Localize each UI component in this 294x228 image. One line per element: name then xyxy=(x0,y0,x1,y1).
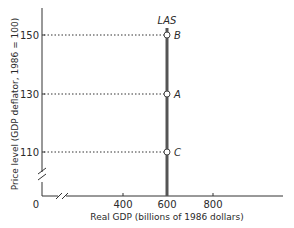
point-c-marker xyxy=(164,149,170,155)
y-tick-130: 130 xyxy=(20,89,39,100)
point-a-label: A xyxy=(173,89,181,100)
x-tick-400: 400 xyxy=(113,199,132,210)
point-b-label: B xyxy=(174,30,181,41)
x-tick-600: 600 xyxy=(157,199,176,210)
y-tick-150: 150 xyxy=(20,30,39,41)
x-tick-800: 800 xyxy=(203,199,222,210)
y-tick-110: 110 xyxy=(20,147,39,158)
x-tick-0: 0 xyxy=(33,199,39,210)
point-b-marker xyxy=(164,32,170,38)
y-axis-label: Price level (GDP deflator, 1986 = 100) xyxy=(10,18,20,191)
point-a-marker xyxy=(164,91,170,97)
las-chart: 150 130 110 0 400 600 800 Real GDP (bill… xyxy=(0,0,294,228)
point-c-label: C xyxy=(174,147,181,158)
guide-lines xyxy=(44,35,164,152)
x-axis-label: Real GDP (billions of 1986 dollars) xyxy=(90,212,243,222)
las-label: LAS xyxy=(158,15,177,26)
